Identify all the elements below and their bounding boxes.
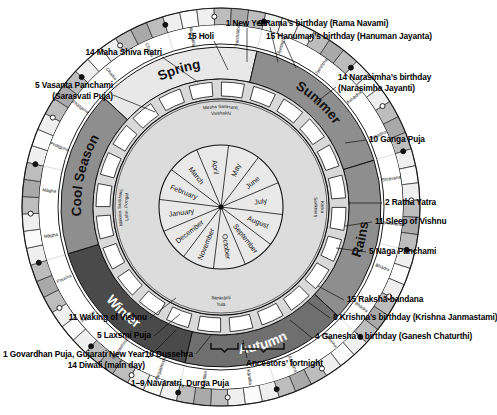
svg-text:July: July (254, 196, 268, 207)
full-moon-marker (28, 211, 33, 216)
full-moon-marker (118, 43, 123, 48)
new-moon-marker (36, 260, 41, 265)
new-moon-marker (404, 247, 409, 252)
full-moon-marker (380, 104, 385, 109)
fortnight-tooth (198, 316, 221, 332)
new-moon-marker (274, 387, 279, 392)
new-moon-marker (79, 75, 84, 80)
full-moon-marker (409, 198, 414, 203)
new-moon-marker (348, 65, 353, 70)
full-moon-marker (129, 373, 134, 378)
full-moon-marker (57, 305, 62, 310)
full-moon-marker (225, 395, 230, 400)
full-moon-marker (308, 36, 313, 41)
new-moon-marker (261, 19, 266, 24)
gregorian-month-wheel: JanuaryFebruaryMarchAprilMayJuneJulyAugu… (159, 145, 283, 269)
fortnight-tooth (330, 207, 346, 230)
new-moon-marker (33, 162, 38, 167)
svg-text:Karka: Karka (320, 201, 325, 214)
full-moon-marker (387, 294, 392, 299)
fortnight-tooth (221, 82, 244, 98)
new-moon-marker (163, 22, 168, 27)
new-moon-marker (89, 344, 94, 349)
svg-text:Sankranti: Sankranti (313, 197, 319, 217)
new-moon-marker (401, 149, 406, 154)
svg-text:Sankrānti: Sankrānti (211, 295, 231, 301)
svg-text:Vaishakhi: Vaishakhi (211, 110, 231, 116)
full-moon-marker (212, 14, 217, 19)
full-moon-marker (319, 366, 324, 371)
new-moon-marker (176, 390, 181, 395)
new-moon-marker (358, 334, 363, 339)
fortnight-tooth (96, 184, 112, 207)
svg-text:Tulā: Tulā (217, 302, 226, 307)
full-moon-marker (50, 115, 55, 120)
